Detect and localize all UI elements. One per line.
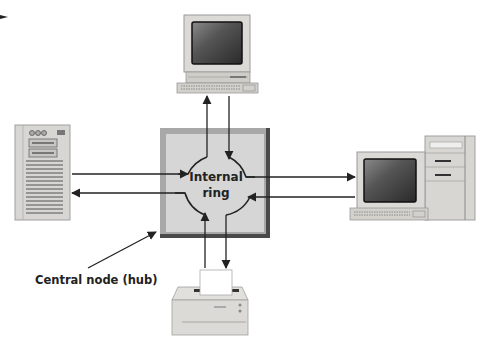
network-diagram: Internal ring Central node (hub)	[0, 0, 494, 350]
hub-callout-label: Central node (hub)	[35, 273, 158, 287]
corner-arrow-icon	[0, 15, 8, 19]
hub-label-line2: ring	[202, 186, 229, 200]
left-server-tower	[15, 125, 70, 220]
callout-pointer	[88, 232, 156, 268]
bottom-printer	[172, 270, 248, 335]
right-workstation	[350, 136, 475, 220]
top-desktop-computer	[177, 15, 258, 93]
hub-label-line1: Internal	[189, 170, 243, 184]
